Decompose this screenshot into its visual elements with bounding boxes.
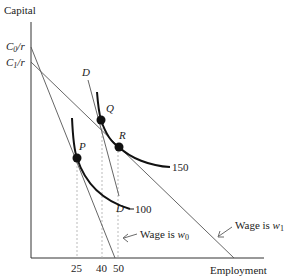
isocost-line-w1 <box>31 62 234 258</box>
wage-w1-arrowhead-icon <box>218 231 224 237</box>
wage-w0-label: Wage is w0 <box>140 228 189 242</box>
point-q-label: Q <box>106 102 114 114</box>
isoquant-100-label: 100 <box>135 203 152 215</box>
intercept-c0-label: C0/r <box>6 40 25 54</box>
intercept-c1-label: C1/r <box>6 56 25 70</box>
x-tick-40: 40 <box>96 262 108 274</box>
point-r-label: R <box>118 129 126 141</box>
dd-top-label: D <box>81 66 90 78</box>
point-q <box>97 116 106 125</box>
parallel-line-dd <box>88 80 119 196</box>
point-p-label: P <box>78 140 86 152</box>
x-tick-25: 25 <box>71 262 83 274</box>
y-axis-label: Capital <box>4 4 36 16</box>
wage-w1-label: Wage is w1 <box>235 219 284 233</box>
isoquant-diagram: Capital Employment C0/r C1/r 25 40 50 D … <box>0 0 292 278</box>
wage-w1-arrow-shaft <box>219 227 232 236</box>
x-axis-label: Employment <box>210 264 267 276</box>
point-p <box>73 154 82 163</box>
isoquant-150-label: 150 <box>172 161 189 173</box>
x-tick-50: 50 <box>113 262 125 274</box>
wage-w0-arrowhead-icon <box>123 234 128 242</box>
point-r <box>115 143 124 152</box>
